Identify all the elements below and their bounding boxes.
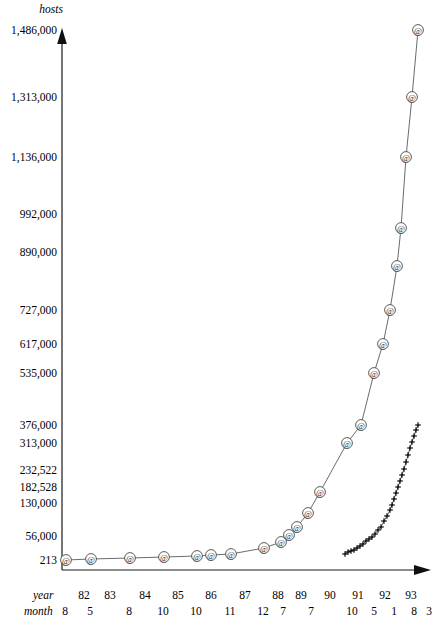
x-axis-month-tick: 10 [184, 605, 208, 617]
x-axis-year-tick: 85 [166, 589, 190, 601]
x-axis-year-tick: 88 [266, 589, 290, 601]
x-axis-year-label: year [33, 589, 53, 601]
x-axis-month-tick: 7 [299, 605, 323, 617]
x-axis-year-tick: 90 [318, 589, 342, 601]
x-axis-year-tick: 89 [289, 589, 313, 601]
x-axis-year-tick: 93 [399, 589, 423, 601]
x-axis-month-tick: 11 [218, 605, 242, 617]
y-axis-title: hosts [39, 3, 63, 15]
x-axis-year-tick: 83 [98, 589, 122, 601]
x-axis-year-tick: 84 [133, 589, 157, 601]
x-axis-year-tick: 86 [199, 589, 223, 601]
x-axis-month-label: month [24, 605, 53, 617]
x-axis-year-tick: 92 [373, 589, 397, 601]
chart-root: @@@@@@@@@@@@@@@@@@@@@@@ 1,486,0001,313,0… [0, 0, 440, 628]
x-axis-tick-labels: 8283848586878889909192938581010111277105… [0, 0, 440, 628]
x-axis-month-tick: 7 [271, 605, 295, 617]
x-axis-month-tick: 10 [340, 605, 364, 617]
x-axis-year-tick: 87 [233, 589, 257, 601]
x-axis-year-tick: 82 [72, 589, 96, 601]
x-axis-month-tick: 8 [117, 605, 141, 617]
x-axis-month-tick: 10 [151, 605, 175, 617]
x-axis-month-tick: 3 [417, 605, 440, 617]
x-axis-month-tick: 8 [53, 605, 77, 617]
x-axis-month-tick: 5 [78, 605, 102, 617]
x-axis-year-tick: 91 [346, 589, 370, 601]
